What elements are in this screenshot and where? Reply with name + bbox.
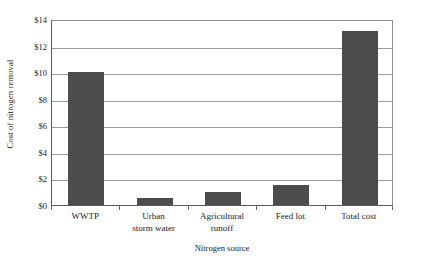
y-axis-tick-label: $12 [34, 42, 47, 51]
x-axis-category-label: Feed lot [256, 211, 324, 223]
x-axis-tick [325, 206, 326, 210]
y-axis-tick-label: $8 [39, 95, 48, 104]
y-axis-tick-label: $0 [39, 202, 48, 211]
y-axis-tick-label: $14 [34, 16, 47, 25]
x-axis-category-label-line: Total cost [325, 211, 393, 223]
x-axis-category-label-line: Urban [119, 211, 187, 223]
x-axis-tick [119, 206, 120, 210]
bars-layer [52, 21, 392, 205]
x-axis-tick [188, 206, 189, 210]
bar [205, 192, 241, 205]
bar [273, 185, 309, 205]
x-axis-category-label-line: Agricultural [188, 211, 256, 223]
y-axis-tick-label: $4 [39, 149, 48, 158]
plot-area [51, 20, 393, 206]
x-axis-category-label-line: storm water [119, 223, 187, 235]
x-axis-category-label: WWTP [51, 211, 119, 223]
x-axis-category-label-line: WWTP [51, 211, 119, 223]
x-axis-title: Nitrogen source [51, 243, 393, 253]
bar [137, 198, 173, 205]
y-axis-title: Cost of nitrogen removal [0, 0, 20, 208]
bar [68, 72, 104, 205]
x-axis-category-label: Urbanstorm water [119, 211, 187, 234]
bar [342, 31, 378, 205]
x-axis-tick [256, 206, 257, 210]
x-axis-tick [51, 206, 52, 210]
bar-chart: Cost of nitrogen removal $0$2$4$6$8$10$1… [0, 0, 421, 266]
x-axis-category-label: Total cost [325, 211, 393, 223]
y-axis-tick-label: $2 [39, 175, 48, 184]
y-axis-tick-label: $10 [34, 69, 47, 78]
x-axis-tick [392, 206, 393, 210]
y-axis-tick-labels: $0$2$4$6$8$10$12$14 [20, 0, 51, 207]
x-axis-category-label: Agriculturalrunoff [188, 211, 256, 234]
x-axis-category-labels: WWTPUrbanstorm waterAgriculturalrunoffFe… [51, 211, 393, 243]
y-axis-tick-label: $6 [39, 122, 48, 131]
y-axis-title-text: Cost of nitrogen removal [5, 60, 15, 149]
x-axis-category-label-line: runoff [188, 223, 256, 235]
x-axis-category-label-line: Feed lot [256, 211, 324, 223]
